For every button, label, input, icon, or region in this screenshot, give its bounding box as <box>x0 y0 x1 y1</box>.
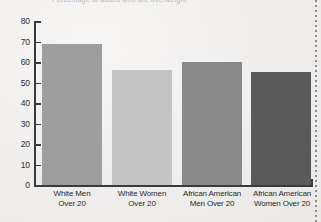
chart-page: Percentage of adults who are overweight … <box>0 0 321 222</box>
x-category-label-1: White Women Over 20 <box>110 189 174 209</box>
y-tick-mark-50 <box>34 83 41 85</box>
x-category-label-1-line2: Over 20 <box>110 199 174 209</box>
y-tick-label-50: 50 <box>6 79 30 88</box>
y-tick-mark-60 <box>34 62 41 64</box>
y-tick-label-30: 30 <box>6 120 30 129</box>
cutoff-title-sliver: Percentage of adults who are overweight <box>52 0 267 4</box>
y-tick-label-80: 80 <box>6 17 30 26</box>
y-tick-mark-70 <box>34 42 41 44</box>
x-category-label-1-line1: White Women <box>110 189 174 199</box>
y-tick-mark-0 <box>34 185 41 187</box>
scan-artifact-dotted-line <box>315 0 317 222</box>
x-category-label-0-line1: White Men <box>42 189 102 199</box>
x-axis-baseline <box>34 185 313 187</box>
y-tick-label-0: 0 <box>6 181 30 190</box>
y-tick-label-10: 10 <box>6 161 30 170</box>
y-tick-mark-20 <box>34 144 41 146</box>
y-tick-label-60: 60 <box>6 58 30 67</box>
y-tick-label-20: 20 <box>6 140 30 149</box>
y-tick-mark-10 <box>34 165 41 167</box>
bar-african-american-women-over-20[interactable] <box>251 72 311 185</box>
bar-white-men-over-20[interactable] <box>42 44 102 185</box>
x-category-label-0-line2: Over 20 <box>42 199 102 209</box>
x-category-label-3: African American Women Over 20 <box>242 189 321 209</box>
bar-white-women-over-20[interactable] <box>112 70 172 185</box>
y-tick-mark-40 <box>34 103 41 105</box>
y-tick-mark-30 <box>34 124 41 126</box>
x-category-label-3-line1: African American <box>242 189 321 199</box>
x-category-label-3-line2: Women Over 20 <box>242 199 321 209</box>
x-category-label-2-line1: African American <box>173 189 251 199</box>
x-axis-end-tick <box>311 179 313 186</box>
y-tick-label-40: 40 <box>6 99 30 108</box>
y-tick-mark-80 <box>34 21 41 23</box>
bar-chart-plot: 80 70 60 50 40 30 20 10 0 White Men Over… <box>0 0 321 222</box>
bar-african-american-men-over-20[interactable] <box>182 62 242 185</box>
x-category-label-2-line2: Men Over 20 <box>173 199 251 209</box>
x-category-label-2: African American Men Over 20 <box>173 189 251 209</box>
cutoff-title-text: Percentage of adults who are overweight <box>52 0 267 3</box>
y-tick-label-70: 70 <box>6 38 30 47</box>
x-category-label-0: White Men Over 20 <box>42 189 102 209</box>
